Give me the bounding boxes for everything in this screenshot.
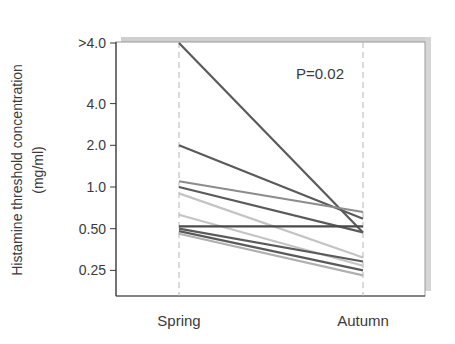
chart: >4.04.02.01.00.500.25 P=0.02 Spring Autu… xyxy=(0,0,455,344)
p-value-annotation: P=0.02 xyxy=(296,65,344,82)
x-label-spring: Spring xyxy=(157,312,200,329)
y-tick-label: >4.0 xyxy=(78,35,106,51)
y-tick-label: 0.50 xyxy=(79,221,106,237)
y-tick-label: 4.0 xyxy=(87,96,107,112)
y-axis-title: Histamine threshold concentration (mg/ml… xyxy=(9,64,46,276)
y-tick-label: 1.0 xyxy=(87,179,107,195)
plot-area xyxy=(116,42,425,296)
y-tick-label: 2.0 xyxy=(87,137,107,153)
y-axis-title-line2: (mg/ml) xyxy=(30,146,46,193)
y-ticks: >4.04.02.01.00.500.25 xyxy=(78,35,116,278)
frame-shadow-right xyxy=(425,37,431,291)
y-tick-label: 0.25 xyxy=(79,262,106,278)
y-axis-title-line1: Histamine threshold concentration xyxy=(9,64,25,276)
x-label-autumn: Autumn xyxy=(337,312,389,329)
